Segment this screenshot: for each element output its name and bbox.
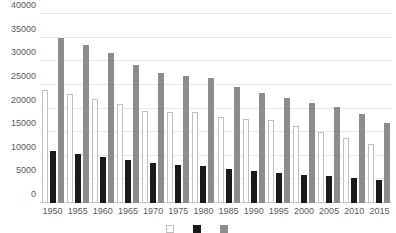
bar-series-gray-2005[interactable] [334, 107, 340, 203]
bar-group [291, 14, 316, 203]
y-tick-label: 0 [0, 190, 36, 199]
bar-group [241, 14, 266, 203]
bar-series-gray-1960[interactable] [108, 53, 114, 203]
bar-group [166, 14, 191, 203]
bar-group [141, 14, 166, 203]
bar-group [342, 14, 367, 203]
legend-entry[interactable] [166, 225, 177, 233]
legend-swatch-icon [166, 225, 174, 233]
plot-area [40, 14, 392, 203]
bar-series-white-1985[interactable] [218, 117, 224, 203]
bar-series-gray-2000[interactable] [309, 103, 315, 203]
bar-group [191, 14, 216, 203]
x-tick-label: 1950 [40, 205, 65, 217]
legend-swatch-icon [220, 225, 228, 233]
bar-group [317, 14, 342, 203]
bar-series-black-1960[interactable] [100, 157, 106, 203]
bar-series-black-1995[interactable] [276, 173, 282, 203]
bar-series-black-2015[interactable] [376, 180, 382, 203]
bar-series-gray-1955[interactable] [83, 45, 89, 203]
bar-series-white-2015[interactable] [368, 144, 374, 203]
bar-series-gray-1985[interactable] [234, 87, 240, 203]
x-tick-label: 1965 [115, 205, 140, 217]
x-tick-label: 1980 [191, 205, 216, 217]
bar-series-white-1955[interactable] [67, 94, 73, 203]
y-tick-label: 5000 [0, 166, 36, 175]
bar-series-white-2010[interactable] [343, 138, 349, 203]
bar-group [115, 14, 140, 203]
x-tick-label: 2015 [367, 205, 392, 217]
y-tick-label: 20000 [0, 95, 36, 104]
bar-group [90, 14, 115, 203]
bar-series-gray-1990[interactable] [259, 93, 265, 203]
bar-series-black-1965[interactable] [125, 160, 131, 203]
bar-series-gray-2015[interactable] [384, 123, 390, 203]
bar-series-gray-1980[interactable] [208, 78, 214, 203]
x-tick-label: 2005 [317, 205, 342, 217]
bar-series-gray-1965[interactable] [133, 65, 139, 203]
x-tick-label: 1995 [266, 205, 291, 217]
bar-series-white-1950[interactable] [42, 90, 48, 203]
x-tick-label: 1955 [65, 205, 90, 217]
legend-entry[interactable] [193, 225, 204, 233]
y-tick-label: 35000 [0, 24, 36, 33]
y-axis-tick-labels: 0500010000150002000025000300003500040000 [0, 14, 36, 203]
x-tick-label: 1990 [241, 205, 266, 217]
bar-group [216, 14, 241, 203]
x-tick-label: 1975 [166, 205, 191, 217]
chart-legend [0, 225, 396, 233]
bars-layer [40, 14, 392, 203]
legend-entry[interactable] [220, 225, 231, 233]
bar-series-gray-2010[interactable] [359, 114, 365, 203]
y-tick-label: 40000 [0, 1, 36, 10]
bar-group [367, 14, 392, 203]
y-tick-label: 10000 [0, 142, 36, 151]
bar-series-white-2000[interactable] [293, 126, 299, 203]
bar-series-white-2005[interactable] [318, 132, 324, 203]
bar-series-white-1980[interactable] [192, 112, 198, 203]
bar-series-black-2010[interactable] [351, 178, 357, 203]
bar-series-black-1970[interactable] [150, 163, 156, 203]
bar-chart: 0500010000150002000025000300003500040000… [0, 0, 396, 233]
bar-series-white-1970[interactable] [142, 111, 148, 203]
bar-series-gray-1950[interactable] [58, 38, 64, 203]
bar-series-black-1985[interactable] [226, 169, 232, 203]
bar-series-white-1995[interactable] [268, 120, 274, 203]
bar-series-gray-1995[interactable] [284, 98, 290, 203]
y-tick-label: 30000 [0, 48, 36, 57]
bar-series-black-1990[interactable] [251, 171, 257, 203]
bar-series-white-1990[interactable] [243, 119, 249, 203]
bar-series-black-1975[interactable] [175, 165, 181, 203]
x-tick-label: 1985 [216, 205, 241, 217]
x-tick-label: 2010 [342, 205, 367, 217]
x-tick-label: 1970 [141, 205, 166, 217]
y-tick-label: 15000 [0, 119, 36, 128]
bar-series-black-2005[interactable] [326, 176, 332, 203]
bar-series-black-1950[interactable] [50, 151, 56, 203]
bar-series-white-1975[interactable] [167, 112, 173, 203]
bar-series-black-1955[interactable] [75, 154, 81, 203]
bar-series-black-2000[interactable] [301, 175, 307, 203]
bar-group [266, 14, 291, 203]
y-tick-label: 25000 [0, 71, 36, 80]
bar-group [65, 14, 90, 203]
bar-series-white-1960[interactable] [92, 99, 98, 203]
bar-series-white-1965[interactable] [117, 104, 123, 203]
bar-series-gray-1970[interactable] [158, 73, 164, 203]
bar-series-black-1980[interactable] [200, 166, 206, 203]
legend-swatch-icon [193, 225, 201, 233]
x-tick-label: 1960 [90, 205, 115, 217]
bar-series-gray-1975[interactable] [183, 76, 189, 203]
x-axis-tick-labels: 1950195519601965197019751980198519901995… [40, 205, 392, 219]
bar-group [40, 14, 65, 203]
x-tick-label: 2000 [291, 205, 316, 217]
